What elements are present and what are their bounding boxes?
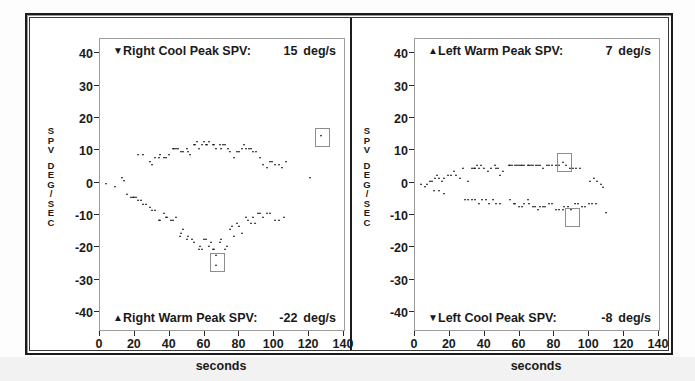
data-point (600, 183, 602, 185)
peak-marker-box[interactable] (565, 208, 580, 227)
data-point (453, 170, 455, 172)
data-point (544, 206, 546, 208)
data-point (527, 199, 529, 201)
data-point (262, 216, 264, 218)
y-tick-label: -30 (59, 275, 93, 287)
x-tick-label: 0 (84, 338, 114, 350)
x-tick-label: 120 (293, 338, 323, 350)
bottom-banner-units: deg/s (618, 311, 651, 325)
data-point (165, 157, 167, 159)
data-point (189, 154, 191, 156)
data-point (241, 232, 243, 234)
data-point (283, 216, 285, 218)
data-point (203, 141, 205, 143)
x-tick-mark (273, 331, 274, 336)
data-point (495, 203, 497, 205)
data-point (208, 141, 210, 143)
x-tick-label: 120 (608, 338, 638, 350)
y-tick-label: 30 (374, 81, 408, 93)
x-tick-mark (238, 331, 239, 336)
data-point (548, 164, 550, 166)
data-point (266, 212, 268, 214)
peak-marker-box[interactable] (557, 153, 572, 172)
peak-marker-box[interactable] (210, 253, 225, 272)
data-point (438, 177, 440, 179)
y-tick-label: -10 (374, 210, 408, 222)
data-point (497, 167, 499, 169)
data-point (266, 167, 268, 169)
data-point (196, 141, 198, 143)
plot-area-right-ear[interactable]: ▼ Right Cool Peak SPV: 15 deg/s ▲ Right … (99, 38, 345, 331)
data-point (154, 157, 156, 159)
top-banner-right-cool: ▼ Right Cool Peak SPV: 15 deg/s (100, 41, 344, 61)
data-point (243, 144, 245, 146)
data-point (206, 144, 208, 146)
data-point (126, 193, 128, 195)
y-axis-caption-left: S P V D E G / S E C (44, 126, 58, 227)
data-point (194, 144, 196, 146)
data-point (163, 212, 165, 214)
data-point (481, 199, 483, 201)
data-point (220, 238, 222, 240)
panel-left-ear: S P V D E G / S E C 403020100-10-20-30-4… (352, 18, 668, 350)
data-point (532, 164, 534, 166)
data-point (159, 154, 161, 156)
top-banner-value: 7 (582, 44, 612, 58)
data-point (464, 199, 466, 201)
data-point (187, 151, 189, 153)
data-point (467, 180, 469, 182)
x-tick-mark (99, 331, 100, 336)
data-point (485, 199, 487, 201)
data-point (199, 245, 201, 247)
data-point (250, 148, 252, 150)
data-point (539, 206, 541, 208)
top-banner-units: deg/s (618, 44, 651, 58)
bottom-banner-label: Right Warm Peak SPV: (123, 311, 257, 325)
data-point (478, 203, 480, 205)
data-point (596, 180, 598, 182)
x-tick-mark (169, 331, 170, 336)
x-tick-label: 40 (469, 338, 499, 350)
x-tick-label: 40 (154, 338, 184, 350)
data-point (219, 144, 221, 146)
data-point (455, 174, 457, 176)
data-point (140, 199, 142, 201)
data-point (151, 209, 153, 211)
x-tick-label: 100 (573, 338, 603, 350)
bottom-banner-value: -22 (267, 311, 297, 325)
x-tick-label: 20 (434, 338, 464, 350)
x-tick-mark (484, 331, 485, 336)
data-point (179, 235, 181, 237)
peak-marker-box[interactable] (315, 128, 330, 147)
data-point (492, 199, 494, 201)
data-point (226, 245, 228, 247)
y-tick-label: 40 (59, 48, 93, 60)
plot-area-left-ear[interactable]: ▲ Left Warm Peak SPV: 7 deg/s ▼ Left Coo… (414, 38, 660, 331)
data-point (186, 238, 188, 240)
data-point (551, 164, 553, 166)
data-point (123, 180, 125, 182)
data-point (233, 235, 235, 237)
bottom-banner-left-cool: ▼ Left Cool Peak SPV: -8 deg/s (415, 308, 659, 328)
data-point (238, 225, 240, 227)
data-point (213, 248, 215, 250)
y-tick-label: -10 (59, 210, 93, 222)
data-point (224, 144, 226, 146)
y-axis-caption-right: S P V D E G / S E C (360, 126, 374, 227)
figure-outer-frame: S P V D E G / S E C 403020100-10-20-30-4… (25, 13, 673, 355)
data-point (462, 167, 464, 169)
x-tick-mark (449, 331, 450, 336)
x-axis-title-left: seconds (99, 359, 343, 373)
data-point (208, 245, 210, 247)
y-tick-label: 40 (374, 48, 408, 60)
data-point (551, 203, 553, 205)
bottom-banner-units: deg/s (303, 311, 336, 325)
screenshot-root: S P V D E G / S E C 403020100-10-20-30-4… (0, 0, 695, 381)
data-point (509, 199, 511, 201)
data-point (245, 216, 247, 218)
data-point (591, 203, 593, 205)
data-point (511, 164, 513, 166)
x-tick-mark (204, 331, 205, 336)
up-triangle-marker: ▲ (428, 46, 437, 56)
y-tick-label: -20 (59, 242, 93, 254)
